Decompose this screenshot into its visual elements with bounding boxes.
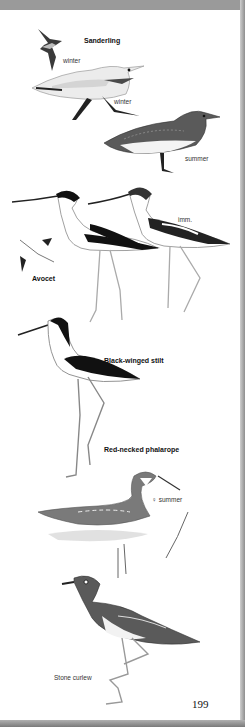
- label-phalarope-female-summer: ♀ summer: [152, 496, 182, 503]
- label-sanderling: Sanderling: [84, 37, 120, 44]
- sanderling-summer-illustration: [104, 103, 224, 178]
- avocet-immature-illustration: [88, 188, 238, 328]
- label-stone-curlew: Stone curlew: [54, 674, 92, 681]
- label-avocet: Avocet: [32, 275, 55, 282]
- label-red-necked-phalarope: Red-necked phalarope: [104, 446, 179, 453]
- label-avocet-immature: imm.: [178, 216, 192, 223]
- black-winged-stilt-illustration: [18, 315, 148, 485]
- page-edge-bottom: [0, 720, 245, 727]
- avocet-chick-illustration: [18, 238, 58, 274]
- red-necked-phalarope-illustration: [38, 468, 188, 578]
- page-number: 199: [192, 698, 209, 710]
- label-sanderling-summer: summer: [185, 155, 208, 162]
- page-edge-right: [240, 0, 245, 727]
- stone-curlew-illustration: [62, 576, 202, 706]
- label-black-winged-stilt: Black-winged stilt: [104, 357, 164, 364]
